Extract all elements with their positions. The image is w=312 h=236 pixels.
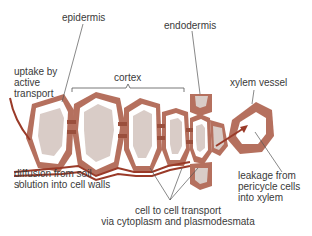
xylem-vessel: [228, 102, 274, 154]
cortex-cell-4: [190, 114, 212, 164]
label-xylem-vessel: xylem vessel: [230, 77, 287, 88]
label-diffusion: diffusion from soil solution into cell w…: [14, 168, 110, 190]
cortex-cell-1: [72, 92, 126, 176]
root-hair-water-transport-diagram: epidermis endodermis uptake by active tr…: [0, 0, 312, 236]
label-cortex: cortex: [114, 72, 141, 83]
label-endodermis: endodermis: [164, 20, 216, 31]
label-cell-to-cell-transport: cell to cell transport via cytoplasm and…: [98, 205, 258, 227]
label-leakage: leakage from pericycle cells into xylem: [238, 170, 300, 203]
epidermis-cell: [26, 94, 74, 172]
cortex-cell-3: [162, 108, 190, 166]
label-epidermis: epidermis: [62, 12, 105, 23]
cortex-brace: [72, 84, 184, 92]
cortex-cell-2: [124, 98, 162, 172]
label-uptake-active-transport: uptake by active transport: [14, 66, 57, 99]
